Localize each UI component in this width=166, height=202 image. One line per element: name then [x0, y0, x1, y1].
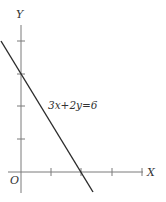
origin-label: O — [10, 174, 19, 187]
equation-line — [1, 41, 93, 192]
x-axis-label: X — [146, 166, 156, 179]
y-axis-label: Y — [16, 8, 25, 21]
equation-label: 3x+2y=6 — [48, 99, 98, 111]
coordinate-plot: Y X O 3x+2y=6 — [0, 0, 166, 202]
